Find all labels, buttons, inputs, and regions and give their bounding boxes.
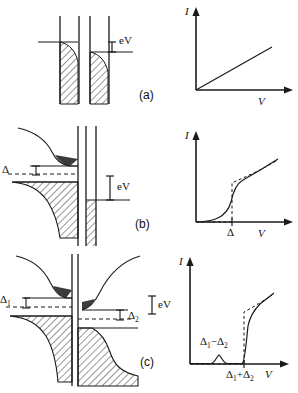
panel-c: I V Δ1−Δ2 Δ1+Δ2 Δ1 Δ2 eV (c)	[0, 254, 298, 393]
axis-label-current-c: I	[179, 256, 183, 267]
panel-b-graphics	[0, 126, 298, 254]
tunnel-diagram-a	[38, 16, 133, 104]
energy-label-ev-b: eV	[117, 181, 130, 192]
figure-root: I V eV (a)	[0, 0, 298, 393]
panel-tag-a: (a)	[139, 88, 154, 102]
axis-label-current-a: I	[185, 6, 189, 17]
axis-label-voltage-b: V	[258, 228, 265, 239]
ev-measure-c	[148, 296, 156, 314]
iv-plot-c	[186, 257, 289, 368]
axis-label-voltage-c: V	[265, 369, 272, 380]
panel-b: I V Δ Δ eV (b)	[0, 126, 298, 254]
gap-label-delta2-c: Δ2	[128, 310, 139, 324]
panel-tag-c: (c)	[140, 355, 154, 369]
panel-tag-b: (b)	[135, 217, 150, 231]
energy-label-ev-c: eV	[158, 299, 171, 310]
gap-label-delta1-c: Δ1	[0, 294, 11, 308]
tick-label-gap-sum-c: Δ1+Δ2	[226, 369, 254, 383]
panel-a: I V eV (a)	[0, 0, 298, 126]
axis-label-voltage-a: V	[258, 96, 265, 107]
iv-plot-b	[192, 131, 293, 226]
iv-plot-a	[192, 7, 293, 94]
gap-label-delta-b: Δ	[2, 164, 9, 175]
axis-label-current-b: I	[185, 130, 189, 141]
annotation-gap-difference-c: Δ1−Δ2	[200, 336, 228, 350]
panel-a-graphics	[0, 0, 298, 126]
energy-label-ev-a: eV	[119, 35, 132, 46]
tunnel-diagram-b	[8, 126, 130, 246]
tick-label-gap-b: Δ	[227, 227, 234, 238]
ev-measure-b	[106, 176, 114, 200]
